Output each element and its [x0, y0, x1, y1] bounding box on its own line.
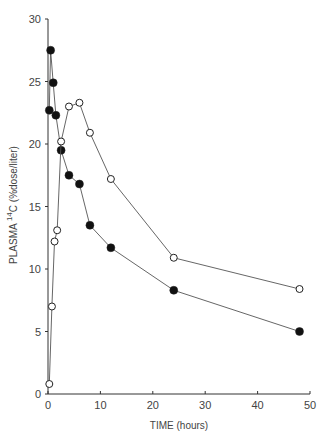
open-circle-marker	[58, 138, 65, 145]
axes: 01020304050051015202530	[29, 13, 316, 411]
filled-circle-marker	[86, 221, 94, 229]
filled-circle-marker	[75, 180, 83, 188]
x-tick-label: 30	[199, 399, 211, 411]
y-tick-label: 30	[29, 13, 41, 25]
x-tick-label: 40	[251, 399, 263, 411]
series-line	[49, 103, 299, 384]
x-axis-title: TIME (hours)	[150, 420, 208, 431]
open-circle-marker	[86, 129, 93, 136]
x-tick-label: 50	[304, 399, 316, 411]
open-circle-marker	[296, 286, 303, 293]
open-circle-marker	[54, 227, 61, 234]
y-tick-label: 10	[29, 263, 41, 275]
open-circle-marker	[107, 176, 114, 183]
open-circle-marker	[170, 254, 177, 261]
y-tick-label: 20	[29, 138, 41, 150]
filled-circle-marker	[52, 111, 60, 119]
open-circle-marker	[76, 99, 83, 106]
x-tick-label: 20	[147, 399, 159, 411]
filled-circle-marker	[65, 171, 73, 179]
plasma-14c-chart: 01020304050051015202530 TIME (hours) PLA…	[0, 0, 326, 438]
filled-circle-marker	[49, 79, 57, 87]
y-tick-label: 25	[29, 76, 41, 88]
filled-circle-marker	[107, 244, 115, 252]
open-circle-marker	[51, 238, 58, 245]
y-tick-label: 15	[29, 201, 41, 213]
y-tick-label: 0	[35, 388, 41, 400]
y-axis-title: PLASMA 14C (%dose/liter)	[5, 146, 19, 264]
filled-circle-marker	[47, 46, 55, 54]
x-tick-label: 10	[94, 399, 106, 411]
filled-circle-marker	[45, 106, 53, 114]
y-tick-label: 5	[35, 326, 41, 338]
open-circle-marker	[48, 303, 55, 310]
open-circle-marker	[46, 381, 53, 388]
filled-circle-marker	[170, 286, 178, 294]
filled-circle-marker	[296, 328, 304, 336]
x-tick-label: 0	[45, 399, 51, 411]
open-circle-marker	[65, 103, 72, 110]
data-series	[45, 46, 303, 387]
